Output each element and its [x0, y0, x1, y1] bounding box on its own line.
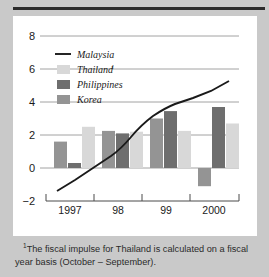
bar-group-98 [102, 131, 143, 168]
legend-item-korea: Korea [57, 94, 102, 105]
y-axis-label-4: 4 [29, 96, 35, 108]
bar-group-99 [150, 111, 191, 168]
legend-label-philippines: Philippines [76, 79, 123, 90]
bar-philippines-1997 [68, 163, 81, 168]
bar-thailand-2000 [226, 124, 239, 169]
x-axis-label-99: 99 [160, 204, 172, 216]
chart-legend: Malaysia Thailand 1 Philippines Korea [55, 49, 123, 106]
bar-thailand-1997 [82, 127, 95, 168]
legend-label-thailand-footnote-marker: 1 [111, 63, 114, 70]
plot-area: 8 6 4 2 0 −2 [13, 16, 257, 236]
y-axis-label-6: 6 [29, 63, 35, 75]
chart-panel: 8 6 4 2 0 −2 [13, 16, 257, 236]
legend-label-korea: Korea [76, 94, 102, 105]
bar-philippines-99 [164, 111, 177, 168]
bar-group-1997 [54, 127, 95, 168]
figure-page: 8 6 4 2 0 −2 [0, 0, 269, 277]
legend-item-philippines: Philippines [57, 79, 123, 90]
x-axis-label-98: 98 [112, 204, 124, 216]
x-axis-label-1997: 1997 [58, 204, 82, 216]
bar-korea-98 [102, 131, 115, 168]
legend-item-malaysia: Malaysia [55, 49, 114, 60]
legend-item-thailand: Thailand 1 [57, 63, 114, 76]
legend-label-malaysia: Malaysia [76, 49, 114, 60]
y-axis-label-8: 8 [29, 30, 35, 42]
legend-swatch-korea [57, 95, 70, 104]
x-axis [46, 194, 239, 201]
bar-korea-99 [150, 119, 163, 169]
bar-korea-2000 [198, 168, 211, 186]
top-divider-rule [13, 7, 265, 10]
y-axis-label-0: 0 [29, 162, 35, 174]
legend-label-thailand: Thailand [77, 64, 114, 75]
legend-swatch-thailand [57, 65, 70, 74]
bar-group-2000 [198, 107, 239, 186]
bar-philippines-2000 [212, 107, 225, 168]
y-axis-label-neg2: −2 [22, 195, 35, 207]
fiscal-impulse-chart: 8 6 4 2 0 −2 [13, 16, 257, 236]
y-axis-label-2: 2 [29, 129, 35, 141]
y-axis-labels: 8 6 4 2 0 −2 [22, 30, 35, 207]
bar-korea-1997 [54, 142, 67, 168]
footnote-indent [15, 244, 23, 254]
x-axis-labels: 1997 98 99 2000 [58, 204, 226, 216]
bar-thailand-99 [178, 131, 191, 168]
legend-swatch-philippines [57, 80, 70, 89]
footnote-text: The fiscal impulse for Thailand is calcu… [15, 244, 248, 267]
y-tick-marks [40, 36, 46, 168]
figure-footnote: 1The fiscal impulse for Thailand is calc… [15, 240, 259, 268]
x-axis-label-2000: 2000 [202, 204, 226, 216]
